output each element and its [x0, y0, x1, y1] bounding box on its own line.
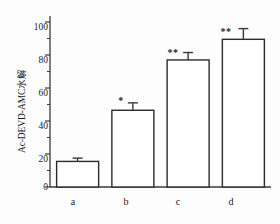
- bar-a: [57, 161, 99, 187]
- plot-area: [0, 0, 280, 224]
- bar-chart-figure: Ac-DEVD-AMC水解 100 80 60 40 20 0 a b c d …: [0, 0, 280, 224]
- bar-b: [112, 110, 154, 187]
- bars-group: [57, 39, 265, 187]
- bar-d: [222, 39, 264, 187]
- bar-c: [167, 60, 209, 187]
- y-axis-ticks: [45, 22, 50, 187]
